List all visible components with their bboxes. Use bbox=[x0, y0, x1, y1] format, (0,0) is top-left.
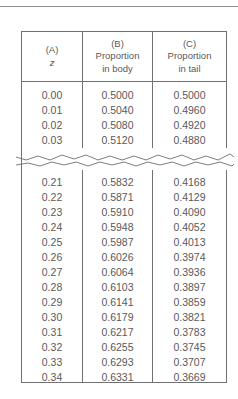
cell-z: 0.21 bbox=[22, 175, 82, 190]
normal-distribution-table: (A) z (B) Proportion in body (C) Proport… bbox=[21, 31, 227, 383]
column-label-c-line2: in tail bbox=[178, 63, 200, 76]
cell-proportion-in-body: 0.6103 bbox=[83, 280, 152, 295]
cell-z: 0.27 bbox=[22, 265, 82, 280]
cell-proportion-in-tail: 0.3821 bbox=[153, 310, 226, 325]
table-row: 0.020.50800.4920 bbox=[22, 118, 226, 133]
column-tag-a: (A) bbox=[46, 44, 59, 57]
column-symbol-z: z bbox=[50, 57, 55, 70]
cell-proportion-in-tail: 0.3707 bbox=[153, 355, 226, 370]
cell-z: 0.34 bbox=[22, 370, 82, 385]
cell-proportion-in-tail: 0.3974 bbox=[153, 250, 226, 265]
table-row: 0.340.63310.3669 bbox=[22, 370, 226, 385]
table-row: 0.230.59100.4090 bbox=[22, 205, 226, 220]
table-row: 0.330.62930.3707 bbox=[22, 355, 226, 370]
cell-proportion-in-tail: 0.4960 bbox=[153, 103, 226, 118]
cell-z: 0.31 bbox=[22, 325, 82, 340]
column-label-b-line2: in body bbox=[102, 63, 133, 76]
table-row: 0.000.50000.5000 bbox=[22, 88, 226, 103]
cell-z: 0.24 bbox=[22, 220, 82, 235]
cell-proportion-in-body: 0.6179 bbox=[83, 310, 152, 325]
column-tag-b: (B) bbox=[111, 38, 124, 51]
table-row: 0.250.59870.4013 bbox=[22, 235, 226, 250]
table-row: 0.220.58710.4129 bbox=[22, 190, 226, 205]
column-header-proportion-in-tail: (C) Proportion in tail bbox=[153, 32, 226, 81]
cell-proportion-in-body: 0.6331 bbox=[83, 370, 152, 385]
cell-proportion-in-tail: 0.3745 bbox=[153, 340, 226, 355]
cell-proportion-in-body: 0.5080 bbox=[83, 118, 152, 133]
cell-proportion-in-tail: 0.4129 bbox=[153, 190, 226, 205]
table-row: 0.210.58320.4168 bbox=[22, 175, 226, 190]
cell-proportion-in-body: 0.6293 bbox=[83, 355, 152, 370]
column-label-b-line1: Proportion bbox=[96, 50, 140, 63]
cell-z: 0.01 bbox=[22, 103, 82, 118]
table-row: 0.320.62550.3745 bbox=[22, 340, 226, 355]
cell-proportion-in-tail: 0.5000 bbox=[153, 88, 226, 103]
omitted-rows-break bbox=[22, 148, 226, 170]
cell-proportion-in-tail: 0.3859 bbox=[153, 295, 226, 310]
table-rows-top-group: 0.000.50000.50000.010.50400.49600.020.50… bbox=[22, 82, 226, 148]
column-header-proportion-in-body: (B) Proportion in body bbox=[83, 32, 152, 81]
table-row: 0.290.61410.3859 bbox=[22, 295, 226, 310]
cell-z: 0.30 bbox=[22, 310, 82, 325]
cell-proportion-in-body: 0.5040 bbox=[83, 103, 152, 118]
cell-z: 0.02 bbox=[22, 118, 82, 133]
column-tag-c: (C) bbox=[183, 38, 196, 51]
cell-z: 0.26 bbox=[22, 250, 82, 265]
column-header-z: (A) z bbox=[22, 32, 82, 81]
cell-proportion-in-tail: 0.3669 bbox=[153, 370, 226, 385]
cell-proportion-in-body: 0.6141 bbox=[83, 295, 152, 310]
table-row: 0.310.62170.3783 bbox=[22, 325, 226, 340]
table-header-row: (A) z (B) Proportion in body (C) Proport… bbox=[22, 32, 226, 81]
cell-proportion-in-tail: 0.4920 bbox=[153, 118, 226, 133]
cell-proportion-in-tail: 0.4168 bbox=[153, 175, 226, 190]
cell-z: 0.28 bbox=[22, 280, 82, 295]
table-row: 0.030.51200.4880 bbox=[22, 133, 226, 148]
cell-proportion-in-tail: 0.3897 bbox=[153, 280, 226, 295]
cell-z: 0.00 bbox=[22, 88, 82, 103]
cell-proportion-in-tail: 0.4090 bbox=[153, 205, 226, 220]
cell-z: 0.22 bbox=[22, 190, 82, 205]
cell-proportion-in-body: 0.6026 bbox=[83, 250, 152, 265]
cell-z: 0.33 bbox=[22, 355, 82, 370]
table-row: 0.270.60640.3936 bbox=[22, 265, 226, 280]
cell-proportion-in-body: 0.5987 bbox=[83, 235, 152, 250]
cell-proportion-in-body: 0.6217 bbox=[83, 325, 152, 340]
cell-z: 0.32 bbox=[22, 340, 82, 355]
cell-z: 0.29 bbox=[22, 295, 82, 310]
column-label-c-line1: Proportion bbox=[168, 50, 212, 63]
cell-proportion-in-body: 0.5000 bbox=[83, 88, 152, 103]
cell-proportion-in-tail: 0.3936 bbox=[153, 265, 226, 280]
cell-z: 0.25 bbox=[22, 235, 82, 250]
cell-proportion-in-body: 0.5120 bbox=[83, 133, 152, 148]
cell-proportion-in-tail: 0.4880 bbox=[153, 133, 226, 148]
table-row: 0.280.61030.3897 bbox=[22, 280, 226, 295]
cell-proportion-in-body: 0.5948 bbox=[83, 220, 152, 235]
table-row: 0.010.50400.4960 bbox=[22, 103, 226, 118]
cell-z: 0.03 bbox=[22, 133, 82, 148]
cell-z: 0.23 bbox=[22, 205, 82, 220]
cell-proportion-in-body: 0.6064 bbox=[83, 265, 152, 280]
page-canvas: (A) z (B) Proportion in body (C) Proport… bbox=[0, 0, 238, 399]
table-row: 0.260.60260.3974 bbox=[22, 250, 226, 265]
table-row: 0.240.59480.4052 bbox=[22, 220, 226, 235]
cell-proportion-in-body: 0.5832 bbox=[83, 175, 152, 190]
break-mask bbox=[23, 148, 227, 170]
page-top-rule bbox=[0, 6, 238, 7]
cell-proportion-in-body: 0.5910 bbox=[83, 205, 152, 220]
cell-proportion-in-tail: 0.4013 bbox=[153, 235, 226, 250]
cell-proportion-in-body: 0.6255 bbox=[83, 340, 152, 355]
table-rows-bottom-group: 0.210.58320.41680.220.58710.41290.230.59… bbox=[22, 170, 226, 385]
cell-proportion-in-body: 0.5871 bbox=[83, 190, 152, 205]
table-body: 0.000.50000.50000.010.50400.49600.020.50… bbox=[22, 82, 226, 382]
cell-proportion-in-tail: 0.4052 bbox=[153, 220, 226, 235]
table-row: 0.300.61790.3821 bbox=[22, 310, 226, 325]
cell-proportion-in-tail: 0.3783 bbox=[153, 325, 226, 340]
